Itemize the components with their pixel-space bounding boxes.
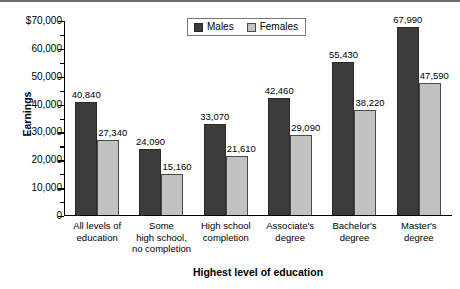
bar-males — [139, 149, 161, 216]
bar-chart-figure: Earnings 010,00020,00030,00040,00050,000… — [0, 0, 460, 289]
y-axis-tick-label: 50,000 — [0, 72, 62, 82]
plot-area: 40,84027,34024,09015,16033,07021,61042,4… — [65, 21, 451, 216]
bar-males — [75, 102, 97, 216]
legend-swatch-icon — [194, 23, 203, 32]
y-axis-tick-label: 40,000 — [0, 100, 62, 110]
bar-value-label: 27,340 — [98, 128, 127, 138]
chart-legend: MalesFemales — [187, 18, 306, 36]
x-axis-tick-label-line: Master's — [380, 220, 458, 232]
legend-item-males[interactable]: Males — [194, 22, 234, 32]
bar-males — [397, 27, 419, 216]
y-axis-tick-label: 0 — [0, 211, 62, 221]
bar-value-label: 33,070 — [200, 112, 230, 122]
x-axis-tick-label: Master'sdegree — [380, 220, 458, 243]
x-axis-line — [64, 215, 452, 216]
y-axis-tick-label: 20,000 — [0, 155, 62, 165]
bar-value-label: 15,160 — [162, 162, 191, 172]
bar-value-label: 21,610 — [227, 144, 256, 154]
y-axis-tick-label: 10,000 — [0, 183, 62, 193]
y-axis-tick-label: $70,000 — [0, 16, 62, 26]
bar-females — [161, 174, 183, 216]
bar-group: 40,84027,340 — [65, 21, 129, 216]
bar-females — [354, 110, 376, 216]
y-axis-tick-label: 60,000 — [0, 44, 62, 54]
bar-group: 67,99047,590 — [387, 21, 451, 216]
legend-label: Males — [207, 22, 234, 32]
bar-group: 24,09015,160 — [129, 21, 193, 216]
bar-group: 55,43038,220 — [322, 21, 386, 216]
legend-item-females[interactable]: Females — [247, 22, 298, 32]
legend-swatch-icon — [247, 23, 256, 32]
bar-group: 42,46029,090 — [258, 21, 322, 216]
legend-label: Females — [260, 22, 298, 32]
bar-females — [97, 140, 119, 216]
y-axis-tick-label: 30,000 — [0, 127, 62, 137]
bar-females — [290, 135, 312, 216]
x-axis-title: Highest level of education — [65, 266, 451, 278]
bar-males — [204, 124, 226, 216]
bar-females — [419, 83, 441, 216]
bar-value-label: 38,220 — [355, 98, 384, 108]
top-border-rule — [0, 0, 460, 2]
bar-value-label: 29,090 — [291, 123, 320, 133]
x-axis-tick-labels: All levels ofeducationSomehigh school,no… — [65, 220, 451, 262]
bar-group: 33,07021,610 — [194, 21, 258, 216]
bar-males — [268, 98, 290, 216]
y-axis-tick-labels: 010,00020,00030,00040,00050,00060,000$70… — [0, 0, 62, 289]
bar-value-label: 55,430 — [328, 50, 358, 60]
bar-value-label: 24,090 — [135, 137, 165, 147]
x-axis-tick-label-line: no completion — [122, 243, 200, 255]
bar-value-label: 42,460 — [264, 86, 294, 96]
bar-value-label: 40,840 — [71, 90, 101, 100]
bar-females — [226, 156, 248, 216]
x-axis-tick-label-line: degree — [380, 232, 458, 244]
bar-males — [332, 62, 354, 216]
bar-value-label: 47,590 — [420, 71, 449, 81]
bar-value-label: 67,990 — [393, 15, 423, 25]
